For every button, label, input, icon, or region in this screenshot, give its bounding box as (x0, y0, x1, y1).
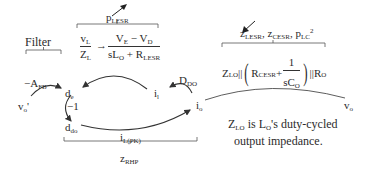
inductor-transfer-fraction: VE − VD sLO + RLESR (108, 33, 160, 60)
pole-moving-arrow-icon (110, 2, 130, 18)
node-ddo: ddo (65, 118, 78, 134)
zero-moving-arrow-icon (240, 19, 258, 35)
rhp-zero-label: zRHP (120, 149, 139, 165)
filter-label: Filter (25, 36, 51, 48)
node-vo-prime: vo' (18, 97, 29, 113)
gain-ddo: DDO (179, 71, 197, 87)
gain-il-pk: iL(PK) (120, 128, 141, 144)
transfer-arrow: → (96, 40, 107, 51)
inductor-current-ratio: vL ZL (80, 33, 91, 60)
node-io: io (196, 96, 203, 112)
output-impedance-equation: ZLO || ( RCESR + 1 sCO ) || RO (222, 57, 326, 89)
node-de: de (65, 84, 74, 100)
note-line-2: output impedance. (234, 135, 323, 147)
node-vo: vo (344, 96, 353, 112)
gain-afb: −AFB (24, 74, 47, 90)
note-line-1: ZLO is LO's duty-cycled (228, 118, 338, 130)
node-il: il (154, 84, 159, 100)
gain-neg-one: −1 (67, 101, 79, 112)
